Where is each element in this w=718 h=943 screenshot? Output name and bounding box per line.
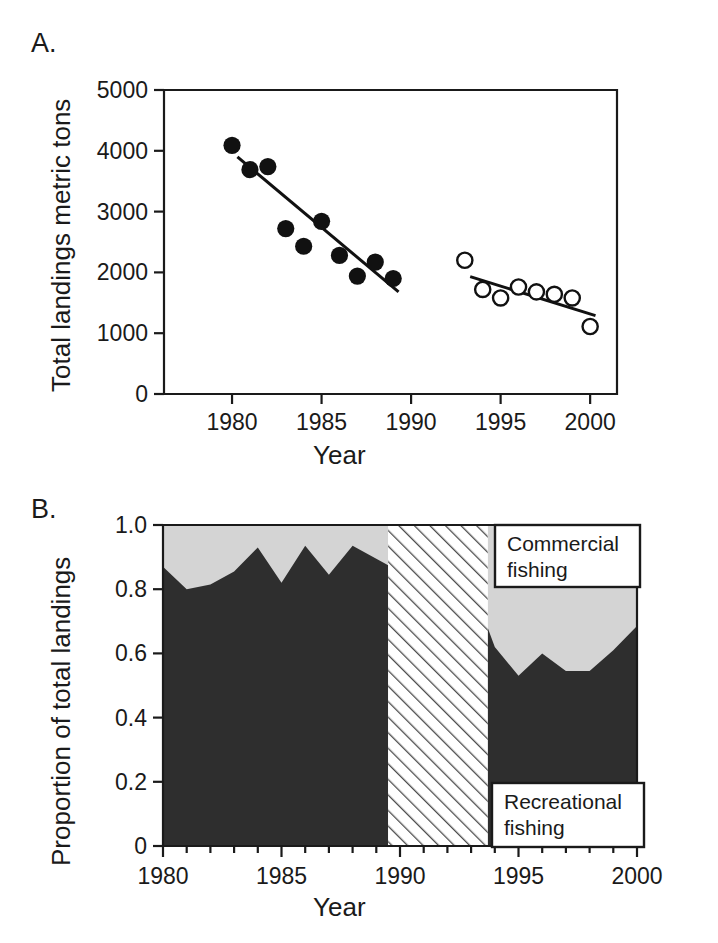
panel-a-tick-marks <box>154 90 590 404</box>
panel-b-y-tick-label: 0.4 <box>115 705 147 731</box>
panel-a-y-tick-label: 2000 <box>97 259 148 285</box>
panel-a-open-circle-marker <box>547 287 562 302</box>
panel-a-open-circle-marker <box>529 284 544 299</box>
panel-a-y-tick-label: 5000 <box>97 77 148 103</box>
panel-a-y-tick-label: 1000 <box>97 320 148 346</box>
panel-b-x-tick-label: 1985 <box>256 863 307 889</box>
panel-b-y-tick-label: 0.6 <box>115 640 147 666</box>
panel-a-filled-circle-marker <box>259 158 276 175</box>
panel-a-x-tick-labels: 19801985199019952000 <box>206 409 615 435</box>
panel-a-open-circle-marker <box>475 282 490 297</box>
panel-a-filled-circle-marker <box>349 267 366 284</box>
panel-b-y-tick-labels: 00.20.40.60.81.0 <box>115 512 147 859</box>
panel-b-y-tick-label: 0.2 <box>115 769 147 795</box>
panel-a-filled-circle-marker <box>331 247 348 264</box>
panel-a-filled-circle-marker <box>367 253 384 270</box>
panel-b-x-tick-labels: 19801985199019952000 <box>137 863 662 889</box>
panel-a-plot-frame <box>164 90 617 394</box>
panel-b-recreational-fishing-area <box>163 546 388 846</box>
panel-a-filled-circle-marker <box>223 137 240 154</box>
panel-a-x-tick-label: 1980 <box>206 409 257 435</box>
panel-b-y-tick-label: 0.8 <box>115 576 147 602</box>
panel-b-stacked-area-plot: 00.20.40.60.81.0 19801985199019952000 Co… <box>0 470 718 943</box>
panel-a-filled-circle-marker <box>313 213 330 230</box>
panel-a-scatter-plot: 010002000300040005000 198019851990199520… <box>0 0 718 470</box>
panel-a-x-tick-label: 1985 <box>296 409 347 435</box>
panel-a-x-tick-label: 1995 <box>475 409 526 435</box>
panel-b-x-tick-label: 1995 <box>493 863 544 889</box>
panel-a-filled-circle-marker <box>385 270 402 287</box>
panel-b-x-tick-label: 2000 <box>611 863 662 889</box>
panel-a-open-circle-marker <box>583 319 598 334</box>
panel-b-no-data-hatch-rect <box>388 525 488 846</box>
panel-a-y-tick-labels: 010002000300040005000 <box>97 77 148 407</box>
legend-commercial-fishing-line1: Commercial <box>507 532 619 555</box>
panel-a-filled-circle-marker <box>295 238 312 255</box>
panel-a-filled-circle-marker <box>241 161 258 178</box>
panel-a-filled-circle-marker <box>277 220 294 237</box>
panel-b-y-tick-label: 1.0 <box>115 512 147 538</box>
panel-b-x-tick-label: 1980 <box>137 863 188 889</box>
panel-a-y-tick-label: 3000 <box>97 199 148 225</box>
panel-b-y-tick-label: 0 <box>134 833 147 859</box>
panel-a-open-circle-marker <box>511 279 526 294</box>
panel-a-open-circle-marker <box>493 290 508 305</box>
panel-a-y-tick-label: 0 <box>135 381 148 407</box>
legend-recreational-fishing-line1: Recreational <box>504 790 622 813</box>
panel-a-x-tick-label: 2000 <box>565 409 616 435</box>
panel-a-filled-data-points <box>223 137 401 287</box>
figure-container: A. B. Total landings metric tons Year Pr… <box>0 0 718 943</box>
panel-b-no-data-hatched-region <box>388 525 488 846</box>
panel-b-x-tick-label: 1990 <box>374 863 425 889</box>
legend-recreational-fishing-line2: fishing <box>504 816 565 839</box>
panel-a-open-circle-marker <box>565 290 580 305</box>
panel-a-y-tick-label: 4000 <box>97 138 148 164</box>
panel-a-open-circle-marker <box>457 253 472 268</box>
panel-a-x-tick-label: 1990 <box>386 409 437 435</box>
legend-commercial-fishing-line2: fishing <box>507 558 568 581</box>
